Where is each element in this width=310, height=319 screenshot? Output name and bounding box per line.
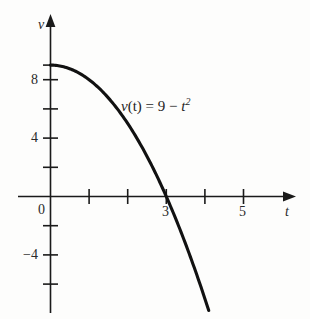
origin-tick-label: 0 [38,203,45,217]
y-axis-arrow-icon [46,14,56,27]
equation-argument: (t) [128,98,142,114]
x-axis-arrow-icon [283,192,296,202]
equation-function-name: v [121,98,128,114]
y-tick-label-8: 8 [31,73,38,87]
x-tick-label-3: 3 [162,205,169,219]
y-tick-label-4: 4 [31,131,38,145]
plot-area [0,0,310,319]
equation-operator: = 9 − [142,98,181,114]
velocity-function-figure: v t 0 3 5 8 4 −4 v(t) = 9 − t2 [0,0,310,319]
y-axis-label: v [38,18,44,32]
x-tick-label-5: 5 [239,205,246,219]
y-tick-label-neg4: −4 [23,248,38,262]
function-equation-annotation: v(t) = 9 − t2 [121,99,190,114]
x-axis-label: t [285,205,289,219]
equation-exponent: 2 [185,96,190,107]
